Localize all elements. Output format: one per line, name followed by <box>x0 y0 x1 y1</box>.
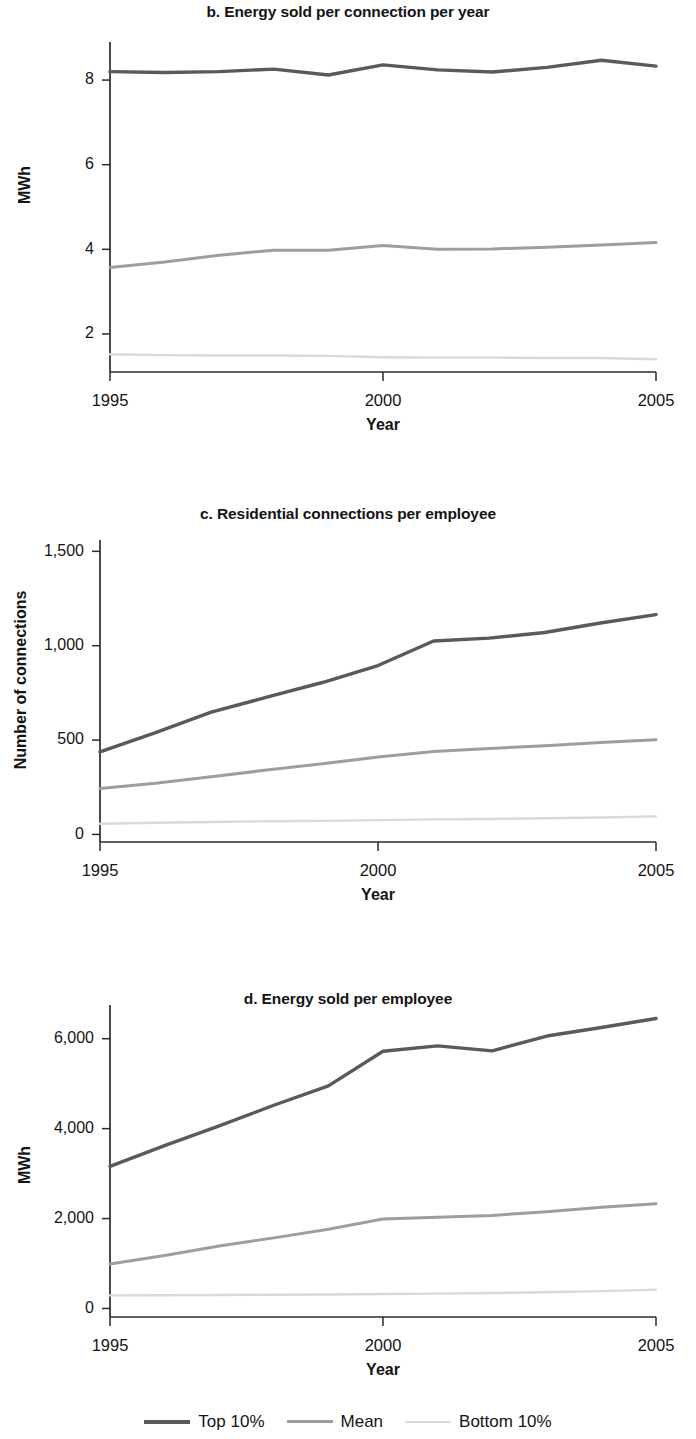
plot-area-d: 02,0004,0006,000199520002005YearMWh <box>0 950 696 1390</box>
x-tick-label: 2000 <box>365 391 402 409</box>
chart-panel-c: c. Residential connections per employee … <box>0 480 696 920</box>
plot-area-b: 2468199520002005YearMWh <box>0 0 696 440</box>
chart-legend: Top 10% Mean Bottom 10% <box>0 1404 696 1439</box>
x-tick-label: 1995 <box>82 861 119 879</box>
legend-swatch-bottom10-icon <box>405 1421 451 1423</box>
legend-label-bottom10: Bottom 10% <box>459 1412 552 1432</box>
x-tick-label: 2005 <box>638 1336 675 1354</box>
x-tick-label: 2005 <box>638 391 675 409</box>
y-axis-title: MWh <box>16 166 33 204</box>
chart-panel-b: b. Energy sold per connection per year 2… <box>0 0 696 440</box>
series-line-top-10 <box>110 60 656 75</box>
x-tick-label: 2005 <box>638 861 675 879</box>
series-line-top-10 <box>110 1018 656 1166</box>
y-tick-label: 8 <box>85 70 94 87</box>
y-tick-label: 1,500 <box>44 542 84 559</box>
series-line-top-10 <box>100 615 656 752</box>
y-axis-title: Number of connections <box>12 591 29 770</box>
x-tick-label: 1995 <box>92 391 129 409</box>
series-line-mean <box>100 740 656 789</box>
x-axis-title: Year <box>366 416 400 433</box>
x-axis-title: Year <box>361 886 395 903</box>
y-tick-label: 500 <box>57 730 84 747</box>
legend-swatch-top10-icon <box>144 1420 190 1424</box>
legend-entry-bottom10: Bottom 10% <box>405 1412 552 1432</box>
series-line-mean <box>110 1204 656 1264</box>
plot-area-c: 05001,0001,500199520002005YearNumber of … <box>0 480 696 920</box>
x-tick-label: 1995 <box>92 1336 129 1354</box>
y-tick-label: 4,000 <box>54 1119 94 1136</box>
x-tick-label: 2000 <box>365 1336 402 1354</box>
y-axis-title: MWh <box>16 1146 33 1184</box>
y-tick-label: 6 <box>85 155 94 172</box>
chart-panel-d: d. Energy sold per employee 02,0004,0006… <box>0 950 696 1390</box>
multi-panel-line-chart-figure: b. Energy sold per connection per year 2… <box>0 0 696 1439</box>
series-line-bottom-10 <box>110 354 656 359</box>
legend-entry-mean: Mean <box>287 1412 384 1432</box>
y-tick-label: 0 <box>85 1299 94 1316</box>
y-tick-label: 4 <box>85 240 94 257</box>
series-line-bottom-10 <box>110 1290 656 1296</box>
y-tick-label: 2,000 <box>54 1209 94 1226</box>
series-line-mean <box>110 243 656 268</box>
x-tick-label: 2000 <box>360 861 397 879</box>
series-line-bottom-10 <box>100 816 656 823</box>
y-tick-label: 1,000 <box>44 636 84 653</box>
legend-label-top10: Top 10% <box>198 1412 264 1432</box>
y-tick-label: 2 <box>85 324 94 341</box>
legend-swatch-mean-icon <box>287 1420 333 1423</box>
y-tick-label: 6,000 <box>54 1029 94 1046</box>
y-tick-label: 0 <box>75 825 84 842</box>
legend-entry-top10: Top 10% <box>144 1412 264 1432</box>
x-axis-title: Year <box>366 1361 400 1378</box>
legend-label-mean: Mean <box>341 1412 384 1432</box>
